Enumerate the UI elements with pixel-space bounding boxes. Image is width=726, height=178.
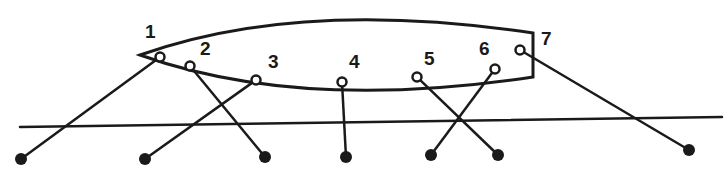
fairlead-icon bbox=[186, 62, 195, 71]
mooring-line-1 bbox=[15, 53, 165, 166]
bollard-icon bbox=[683, 144, 695, 156]
bollard-icon bbox=[340, 151, 352, 163]
quay-edge-line bbox=[20, 117, 722, 127]
line-label-1: 1 bbox=[145, 21, 156, 42]
fairlead-icon bbox=[491, 65, 500, 74]
bollard-icon bbox=[425, 149, 437, 161]
line-label-5: 5 bbox=[424, 48, 435, 69]
line-label-4: 4 bbox=[349, 51, 360, 72]
rope bbox=[21, 60, 156, 159]
hull-outline bbox=[140, 20, 533, 91]
bollard-icon bbox=[15, 153, 27, 165]
fairlead-icon bbox=[252, 76, 261, 85]
fairlead-icon bbox=[413, 73, 422, 82]
line-label-3: 3 bbox=[268, 51, 279, 72]
line-label-2: 2 bbox=[200, 38, 211, 59]
bollard-icon bbox=[259, 151, 271, 163]
mooring-line-3 bbox=[139, 76, 261, 166]
fairlead-icon bbox=[516, 46, 525, 55]
mooring-line-7 bbox=[516, 46, 696, 157]
line-label-7: 7 bbox=[541, 28, 552, 49]
bollard-icon bbox=[139, 153, 151, 165]
fairlead-icon bbox=[156, 53, 165, 62]
mooring-diagram: 1234567 bbox=[0, 0, 726, 178]
fairlead-icon bbox=[338, 78, 347, 87]
ship-hull bbox=[140, 20, 533, 91]
bollard-icon bbox=[492, 149, 504, 161]
line-label-6: 6 bbox=[479, 38, 490, 59]
quay-line bbox=[20, 117, 722, 127]
rope bbox=[524, 52, 689, 150]
